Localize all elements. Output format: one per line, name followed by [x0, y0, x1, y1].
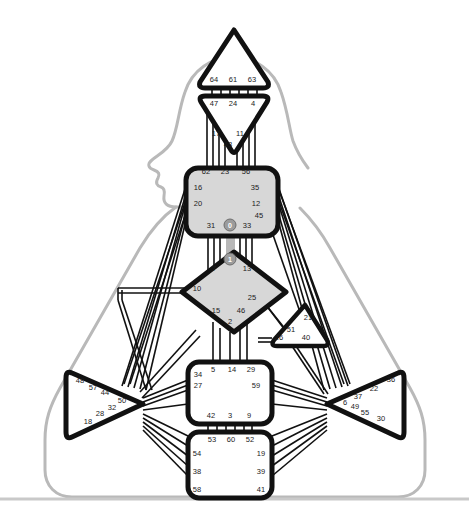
diamond-marker-label: 1 — [228, 256, 232, 263]
edge-bundle-small-to-right-triangle — [292, 346, 328, 394]
node-label: 55 — [361, 408, 369, 417]
node-label: 24 — [229, 99, 237, 108]
node-label: 56 — [242, 167, 250, 176]
node-label: 25 — [248, 293, 256, 302]
node-label: 47 — [210, 99, 218, 108]
edge-bundle-left-triangle-to-boxes — [143, 380, 188, 476]
node-label: 27 — [194, 381, 202, 390]
node-label: 17 — [212, 129, 220, 138]
node-label: 59 — [252, 381, 260, 390]
node-label: 10 — [193, 284, 201, 293]
node-label: 21 — [304, 313, 312, 322]
node-label: 20 — [194, 199, 202, 208]
node-label: 19 — [257, 449, 265, 458]
node-label: 48 — [76, 376, 84, 385]
network-diagram-svg: 0 1 64 61 63 47 24 4 17 11 43 62 23 56 1… — [0, 0, 469, 530]
node-label: 36 — [387, 375, 395, 384]
node-label: 11 — [236, 129, 244, 138]
node-label: 46 — [237, 306, 245, 315]
node-label: 2 — [228, 317, 232, 326]
node-label: 44 — [101, 388, 109, 397]
node-label: 51 — [287, 325, 295, 334]
node-label: 60 — [227, 435, 235, 444]
node-label: 3 — [228, 411, 232, 420]
node-label: 40 — [302, 333, 310, 342]
node-label: 23 — [221, 167, 229, 176]
node-label: 32 — [108, 403, 116, 412]
node-label: 57 — [89, 383, 97, 392]
node-label: 31 — [207, 221, 215, 230]
node-label: 6 — [343, 398, 347, 407]
node-label: 41 — [257, 485, 265, 494]
node-label: 22 — [370, 384, 378, 393]
node-label: 15 — [212, 306, 220, 315]
diagram-canvas: 0 1 64 61 63 47 24 4 17 11 43 62 23 56 1… — [0, 0, 469, 530]
node-label: 43 — [224, 140, 232, 149]
node-label: 35 — [251, 183, 259, 192]
node-label: 18 — [84, 417, 92, 426]
node-label: 62 — [202, 167, 210, 176]
node-label: 9 — [247, 411, 251, 420]
node-label: 12 — [252, 199, 260, 208]
node-label: 28 — [96, 409, 104, 418]
node-label: 13 — [243, 264, 251, 273]
node-label: 52 — [246, 435, 254, 444]
node-label: 37 — [354, 392, 362, 401]
node-label: 45 — [255, 211, 263, 220]
node-label: 64 — [210, 75, 218, 84]
node-label: 29 — [247, 365, 255, 374]
node-label: 50 — [118, 396, 126, 405]
node-label: 42 — [207, 411, 215, 420]
node-label: 34 — [194, 370, 202, 379]
node-label: 38 — [193, 467, 201, 476]
node-label: 14 — [228, 365, 236, 374]
node-label: 33 — [243, 221, 251, 230]
edge-bundle-right-triangle-to-boxes — [272, 380, 327, 476]
node-label: 4 — [251, 99, 255, 108]
node-label: 49 — [351, 402, 359, 411]
node-label: 5 — [211, 365, 215, 374]
node-label: 53 — [208, 435, 216, 444]
edge-small-triangle-left-stub — [258, 338, 272, 342]
node-label: 7 — [212, 264, 216, 273]
node-label: 39 — [257, 467, 265, 476]
node-label: 63 — [248, 75, 256, 84]
node-label: 26 — [275, 333, 283, 342]
node-label: 54 — [193, 449, 201, 458]
node-label: 61 — [229, 75, 237, 84]
graybox-marker-label: 0 — [228, 222, 232, 229]
node-label: 30 — [377, 414, 385, 423]
node-label: 58 — [193, 485, 201, 494]
node-label: 16 — [194, 183, 202, 192]
